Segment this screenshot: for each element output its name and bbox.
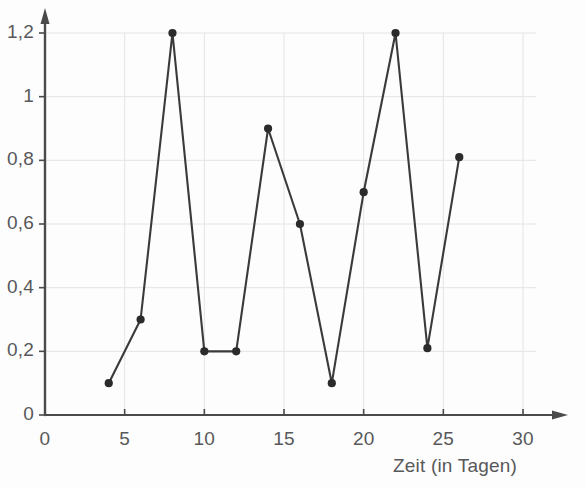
x-tick-label: 10 — [174, 428, 234, 450]
x-tick-label: 0 — [15, 428, 75, 450]
y-tick-label: 0,4 — [7, 276, 34, 298]
x-tick-label: 5 — [95, 428, 155, 450]
x-tick-label: 30 — [493, 428, 553, 450]
chart-plot-area — [0, 0, 586, 487]
horizontal-gridlines — [45, 33, 536, 351]
x-tick-label: 15 — [254, 428, 314, 450]
x-tick-label: 20 — [334, 428, 394, 450]
y-tick-label: 1,2 — [7, 21, 34, 43]
y-tick-label: 0,6 — [7, 212, 34, 234]
x-axis-title: Zeit (in Tagen) — [393, 455, 517, 477]
y-tick-label: 0 — [23, 403, 34, 425]
y-axis-arrow-icon — [41, 8, 50, 24]
y-tick-label: 0,8 — [7, 148, 34, 170]
y-tick-label: 1 — [23, 85, 34, 107]
x-tick-label: 25 — [413, 428, 473, 450]
chart-container: 00,20,40,60,811,2 051015202530 Zeit (in … — [0, 0, 586, 487]
y-tick-label: 0,2 — [7, 339, 34, 361]
x-axis-arrow-icon — [552, 411, 568, 420]
